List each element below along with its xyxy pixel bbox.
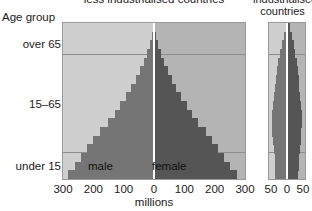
bar-female bbox=[287, 136, 301, 146]
bar-female bbox=[287, 84, 299, 94]
bar-female bbox=[287, 58, 297, 68]
bar-female bbox=[154, 75, 172, 85]
bar-male bbox=[120, 101, 154, 111]
y-tick-label-under-15: under 15 bbox=[0, 160, 61, 172]
bar-female bbox=[154, 84, 176, 94]
plot-panel-industrialised bbox=[268, 22, 306, 180]
bar-male bbox=[108, 118, 154, 128]
bar-female bbox=[154, 118, 198, 128]
bar-female bbox=[287, 127, 301, 137]
bar-female bbox=[154, 110, 192, 120]
x-tick-label: 50 bbox=[297, 183, 310, 195]
x-tick-label: 50 bbox=[265, 183, 278, 195]
bar-female bbox=[287, 153, 299, 163]
chart-title-industrialised: industrialised countries bbox=[253, 0, 312, 17]
bar-male bbox=[136, 75, 154, 85]
bar-male bbox=[115, 110, 154, 120]
x-tick-label: 300 bbox=[53, 183, 72, 195]
bar-male bbox=[93, 136, 154, 146]
chart-title-less-industrialised: less industrialised countries bbox=[62, 0, 246, 5]
bar-female bbox=[154, 92, 181, 102]
bar-male bbox=[87, 144, 154, 154]
bar-female bbox=[154, 66, 168, 76]
bar-female bbox=[287, 101, 301, 111]
y-tick-label-15-65: 15–65 bbox=[0, 98, 61, 110]
series-label-male: male bbox=[88, 160, 113, 172]
x-axis-title-millions: millions bbox=[62, 196, 246, 208]
bar-male bbox=[131, 84, 154, 94]
bar-female bbox=[154, 49, 161, 59]
bar-male bbox=[272, 118, 287, 128]
bar-male bbox=[273, 136, 287, 146]
x-tick-label: 0 bbox=[151, 183, 157, 195]
bar-male bbox=[100, 127, 154, 137]
bar-female bbox=[154, 127, 206, 137]
x-tick-label: 100 bbox=[175, 183, 194, 195]
bar-female bbox=[154, 136, 212, 146]
bar-female bbox=[287, 75, 299, 85]
x-tick-label: 300 bbox=[235, 183, 254, 195]
bar-female bbox=[154, 58, 164, 68]
bar-male bbox=[140, 66, 154, 76]
chart-title-industrialised-line2: countries bbox=[253, 5, 312, 17]
bar-female bbox=[287, 49, 295, 59]
bar-female bbox=[287, 40, 294, 50]
bar-male bbox=[272, 110, 287, 120]
y-axis-title-age-group: Age group bbox=[2, 11, 55, 23]
x-tick-label: 100 bbox=[114, 183, 133, 195]
bar-male bbox=[75, 162, 154, 172]
plot-panel-less-industrialised bbox=[62, 22, 246, 180]
bar-female bbox=[287, 92, 300, 102]
bar-female bbox=[287, 144, 300, 154]
center-divider bbox=[153, 23, 155, 179]
x-tick-label: 0 bbox=[284, 183, 290, 195]
bar-female bbox=[287, 118, 302, 128]
bar-female bbox=[154, 101, 187, 111]
series-label-female: female bbox=[152, 160, 187, 172]
bar-male bbox=[273, 101, 287, 111]
bar-female bbox=[287, 66, 298, 76]
x-tick-label: 200 bbox=[205, 183, 224, 195]
y-tick-label-over-65: over 65 bbox=[0, 38, 61, 50]
x-tick-label: 200 bbox=[84, 183, 103, 195]
population-pyramid-figure: less industrialised countries industrial… bbox=[0, 0, 312, 211]
bar-male bbox=[272, 127, 287, 137]
center-divider-right bbox=[286, 23, 288, 179]
bar-female bbox=[287, 162, 299, 172]
bar-female bbox=[154, 144, 218, 154]
bar-male bbox=[126, 92, 154, 102]
bar-female bbox=[287, 170, 298, 180]
bar-female bbox=[287, 110, 302, 120]
